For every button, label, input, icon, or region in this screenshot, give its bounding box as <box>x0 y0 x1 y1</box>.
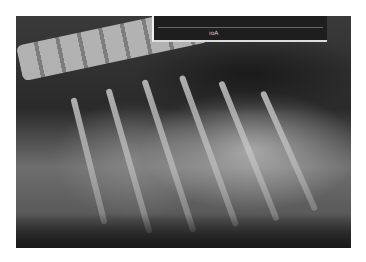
film-label: ıoΑ <box>152 16 327 42</box>
soft-tissue-shadow <box>16 214 351 248</box>
radiograph-image <box>16 16 351 248</box>
label-divider <box>158 27 323 28</box>
rib <box>70 97 107 225</box>
label-text: ıoΑ <box>209 29 218 36</box>
rib <box>105 88 152 234</box>
